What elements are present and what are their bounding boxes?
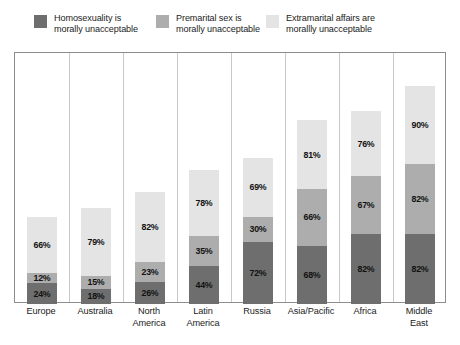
bar-value-label: 24%	[33, 289, 50, 299]
bar-column: 69%30%72%	[231, 158, 285, 304]
bar-segment: 69%	[243, 158, 273, 217]
bar-value-label: 82%	[357, 264, 374, 274]
bar-value-label: 30%	[249, 224, 266, 234]
bar-segment: 82%	[405, 234, 435, 304]
bar-column: 78%35%44%	[177, 170, 231, 304]
bar-value-label: 18%	[87, 291, 104, 301]
bar-value-label: 67%	[357, 200, 374, 210]
category-label: Asia/Pacific	[284, 306, 338, 318]
bar-segment: 24%	[27, 283, 57, 304]
bar-value-label: 12%	[33, 273, 50, 283]
category-label: Europe	[14, 306, 68, 318]
bar-segment: 26%	[135, 282, 165, 304]
legend-swatch-mid	[156, 15, 169, 28]
bar-segment: 18%	[81, 289, 111, 304]
category-label: Australia	[68, 306, 122, 318]
bar-value-label: 82%	[411, 194, 428, 204]
bar-stack: 76%67%82%	[351, 111, 381, 304]
category-label: Latin America	[176, 306, 230, 329]
bar-column: 81%66%68%	[285, 120, 339, 304]
legend-swatch-light	[266, 15, 279, 28]
category-label: Africa	[338, 306, 392, 318]
bar-column: 79%15%18%	[69, 208, 123, 304]
legend-label-0: Homosexuality is morally unacceptable	[54, 13, 138, 36]
bar-segment: 79%	[81, 208, 111, 276]
bars-layer: 66%12%24%79%15%18%82%23%26%78%35%44%69%3…	[15, 53, 447, 304]
bar-value-label: 68%	[303, 270, 320, 280]
bar-column: 82%23%26%	[123, 192, 177, 304]
chart-legend: Homosexuality is morally unacceptablePre…	[34, 13, 446, 47]
bar-segment: 35%	[189, 236, 219, 266]
bar-value-label: 66%	[303, 212, 320, 222]
category-axis: EuropeAustraliaNorth AmericaLatin Americ…	[14, 306, 446, 342]
bar-segment: 30%	[243, 217, 273, 243]
bar-value-label: 26%	[141, 288, 158, 298]
bar-value-label: 78%	[195, 198, 212, 208]
bar-value-label: 90%	[411, 120, 428, 130]
bar-value-label: 81%	[303, 150, 320, 160]
bar-stack: 90%82%82%	[405, 86, 435, 304]
bar-value-label: 72%	[249, 268, 266, 278]
legend-entry-1: Premarital sex is morally unacceptable	[156, 13, 266, 36]
legend-entry-0: Homosexuality is morally unacceptable	[34, 13, 156, 36]
bar-segment: 82%	[405, 164, 435, 234]
bar-value-label: 35%	[195, 246, 212, 256]
bar-value-label: 82%	[141, 222, 158, 232]
bar-segment: 68%	[297, 246, 327, 304]
bar-segment: 72%	[243, 242, 273, 304]
bar-stack: 82%23%26%	[135, 192, 165, 304]
category-label: Middle East	[392, 306, 446, 329]
bar-segment: 82%	[351, 234, 381, 304]
bar-segment: 81%	[297, 120, 327, 189]
bar-value-label: 15%	[87, 277, 104, 287]
bar-value-label: 79%	[87, 237, 104, 247]
bar-segment: 90%	[405, 86, 435, 163]
bar-value-label: 76%	[357, 139, 374, 149]
bar-stack: 78%35%44%	[189, 170, 219, 304]
plot-area: 66%12%24%79%15%18%82%23%26%78%35%44%69%3…	[14, 52, 446, 303]
legend-entry-2: Extramarital affairs are morallly unacce…	[266, 13, 436, 36]
bar-stack: 79%15%18%	[81, 208, 111, 304]
bar-stack: 66%12%24%	[27, 217, 57, 304]
category-label: Russia	[230, 306, 284, 318]
legend-swatch-dark	[34, 15, 47, 28]
bar-column: 90%82%82%	[393, 86, 447, 304]
bar-column: 76%67%82%	[339, 111, 393, 304]
bar-value-label: 66%	[33, 240, 50, 250]
bar-value-label: 23%	[141, 267, 158, 277]
bar-value-label: 69%	[249, 182, 266, 192]
bar-stack: 81%66%68%	[297, 120, 327, 304]
bar-segment: 82%	[135, 192, 165, 262]
bar-column: 66%12%24%	[15, 217, 69, 304]
bar-segment: 12%	[27, 273, 57, 283]
bar-segment: 76%	[351, 111, 381, 176]
bar-segment: 78%	[189, 170, 219, 237]
bar-stack: 69%30%72%	[243, 158, 273, 304]
bar-value-label: 82%	[411, 264, 428, 274]
bar-segment: 15%	[81, 276, 111, 289]
bar-segment: 67%	[351, 176, 381, 233]
legend-label-2: Extramarital affairs are morallly unacce…	[286, 13, 375, 36]
bar-segment: 23%	[135, 262, 165, 282]
bar-segment: 44%	[189, 266, 219, 304]
bar-segment: 66%	[297, 189, 327, 246]
bar-segment: 66%	[27, 217, 57, 274]
legend-label-1: Premarital sex is morally unacceptable	[176, 13, 260, 36]
bar-value-label: 44%	[195, 280, 212, 290]
category-label: North America	[122, 306, 176, 329]
